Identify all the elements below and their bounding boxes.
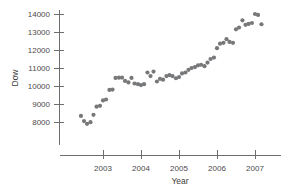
data-point [259,22,263,26]
y-tick-label: 14000 [28,10,51,19]
data-point [129,76,133,80]
x-tick-label: 2003 [94,164,112,173]
data-point [79,114,83,118]
data-point [142,82,146,86]
data-point [161,78,165,82]
dow-scatter-chart: 800090001000011000120001300014000 200320… [0,0,289,195]
x-tick-label: 2004 [132,164,150,173]
x-axis-title: Year [171,176,188,186]
data-point [177,75,181,79]
data-point [88,120,92,124]
data-point [151,70,155,74]
data-point [98,104,102,108]
x-tick-label: 2007 [246,164,264,173]
data-point [205,61,209,65]
data-point [256,13,260,17]
x-tick-label: 2006 [208,164,226,173]
data-point [202,64,206,68]
data-points-layer [79,12,264,126]
data-point [148,74,152,78]
y-tick-label: 12000 [28,46,51,55]
y-tick-label: 10000 [28,82,51,91]
data-point [221,41,225,45]
data-point [110,88,114,92]
x-tick-label: 2005 [170,164,188,173]
x-axis-ticks: 20032004200520062007 [94,150,264,173]
data-point [237,25,241,29]
y-tick-label: 13000 [28,28,51,37]
y-tick-label: 11000 [28,64,50,73]
data-point [250,21,254,25]
chart-canvas: 800090001000011000120001300014000 200320… [0,0,289,195]
data-point [145,70,149,74]
data-point [215,46,219,50]
data-point [91,113,95,117]
data-point [120,75,124,79]
data-point [126,80,130,84]
y-axis-title: Dow [10,69,20,87]
data-point [212,55,216,59]
y-tick-label: 9000 [32,100,50,109]
y-tick-label: 8000 [32,118,50,127]
data-point [240,18,244,22]
data-point [231,41,235,45]
data-point [104,97,108,101]
